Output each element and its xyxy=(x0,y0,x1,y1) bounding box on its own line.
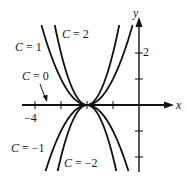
figure: x y −4 2 C = 1 C = 2 C = 0 C = −1 C = −2 xyxy=(0,0,187,179)
y-axis-label: y xyxy=(132,6,139,20)
y-tick-label-2: 2 xyxy=(143,45,149,59)
c0-pointer-arrow-icon xyxy=(43,95,48,102)
chart-svg: x y −4 2 C = 1 C = 2 C = 0 C = −1 C = −2 xyxy=(0,0,187,179)
label-cm2: C = −2 xyxy=(64,156,98,170)
label-c0: C = 0 xyxy=(22,69,49,83)
label-c2: C = 2 xyxy=(62,27,89,41)
x-tick-label-neg4: −4 xyxy=(24,111,37,125)
label-c1: C = 1 xyxy=(15,40,42,54)
label-cm1: C = −1 xyxy=(11,141,45,155)
x-axis-label: x xyxy=(175,98,182,112)
